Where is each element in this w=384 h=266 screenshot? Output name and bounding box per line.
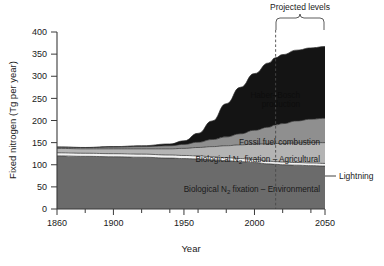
env-label-rest: fixation – Environmental xyxy=(230,185,320,194)
y-tick-label: 250 xyxy=(32,94,47,104)
y-tick-label: 0 xyxy=(42,204,47,214)
series-label-biological-environmental: Biological N2 fixation – Environmental xyxy=(184,185,321,195)
lightning-callout-label: Lightning xyxy=(339,171,374,181)
x-tick-label: 1860 xyxy=(47,218,67,228)
y-tick-label: 150 xyxy=(32,138,47,148)
x-tick-label: 2050 xyxy=(315,218,335,228)
agri-label-main: Biological N xyxy=(195,155,238,164)
x-axis-title: Year xyxy=(181,243,200,254)
y-tick-label: 400 xyxy=(32,27,47,37)
x-tick-label: 2000 xyxy=(244,218,264,228)
agri-label-rest: fixation – Agricultural xyxy=(242,155,320,164)
x-tick-label: 1950 xyxy=(174,218,194,228)
series-label-fossil-fuel-combustion: Fossil fuel combustion xyxy=(239,138,320,147)
y-tick-label: 300 xyxy=(32,71,47,81)
y-tick-label: 50 xyxy=(37,182,47,192)
projected-levels-label: Projected levels xyxy=(270,2,330,12)
y-tick-label: 100 xyxy=(32,160,47,170)
series-label-biological-agricultural: Biological N2 fixation – Agricultural xyxy=(195,155,320,165)
series-label-haber-bosch-line1: Haber–Bosch xyxy=(250,91,300,100)
nitrogen-fixation-stacked-area-chart: 050100150200250300350400 186019001950200… xyxy=(0,0,384,266)
y-axis-title: Fixed nitrogen (Tg per year) xyxy=(7,61,18,179)
env-label-main: Biological N xyxy=(184,185,227,194)
x-tick-label: 1900 xyxy=(103,218,123,228)
y-tick-label: 200 xyxy=(32,116,47,126)
series-label-haber-bosch-line2: production xyxy=(262,100,301,109)
y-tick-label: 350 xyxy=(32,49,47,59)
